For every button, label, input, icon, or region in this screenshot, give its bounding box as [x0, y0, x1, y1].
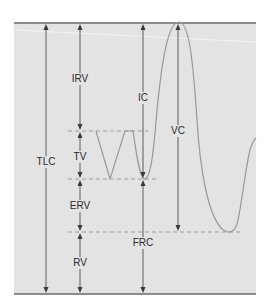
erv-label: ERV [70, 200, 90, 212]
tlc-label: TLC [37, 156, 56, 168]
irv-label: IRV [72, 73, 89, 85]
tv-label: TV [74, 151, 87, 163]
vc-label: VC [171, 125, 185, 137]
spirogram-diagram: TLC IRV TV ERV RV IC VC FRC [0, 0, 271, 308]
ic-label: IC [138, 92, 148, 104]
spirogram-graphic [0, 0, 271, 308]
frc-label: FRC [133, 237, 154, 249]
rv-label: RV [73, 257, 87, 269]
